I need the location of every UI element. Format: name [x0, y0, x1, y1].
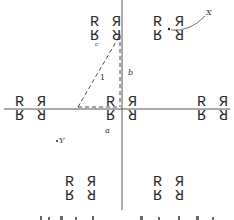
motif-top-left [90, 14, 121, 42]
label-b: b [128, 68, 133, 77]
motif-mid-left [15, 94, 46, 122]
motif-bottom-right [153, 174, 184, 202]
x-point-dot [168, 28, 170, 30]
motif-center [106, 94, 137, 122]
label-x: X [205, 8, 212, 17]
motif-mid-right [197, 94, 228, 122]
motif-bottom-left [65, 174, 96, 202]
label-a: a [105, 126, 110, 135]
label-y: Y [59, 136, 65, 145]
label-angle-1: 1 [100, 73, 105, 82]
symmetry-diagram: R R R R X Y a b c 1 [0, 0, 234, 220]
caption-partial [40, 216, 214, 220]
y-point-dot [56, 140, 58, 142]
